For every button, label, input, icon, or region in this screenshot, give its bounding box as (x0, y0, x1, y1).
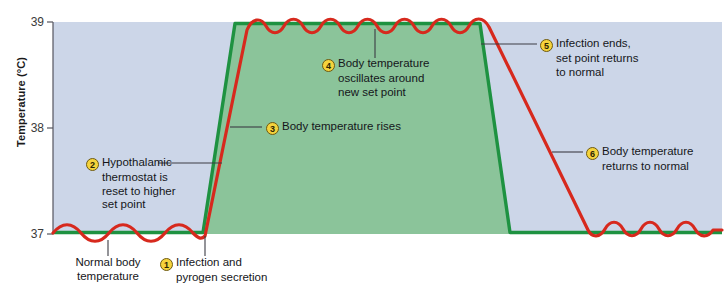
callout-text-4-line-1: Body temperature (338, 57, 429, 69)
callout-5: 5Infection ends, set point returns to no… (540, 37, 670, 79)
callout-text-4-line-2: oscillates around (338, 72, 424, 84)
y-tick-label-38: 38 (20, 121, 44, 135)
callout-badge-4: 4 (322, 59, 335, 72)
normal-body-temp-line-2: temperature (77, 270, 139, 282)
callout-badge-1: 1 (160, 258, 173, 271)
callout-text-6-line-2: returns to normal (602, 160, 689, 172)
y-tick-label-37: 37 (20, 227, 44, 241)
callout-badge-2: 2 (86, 158, 99, 171)
y-tick-label-39: 39 (20, 15, 44, 29)
callout-2: 2Hypothalamic thermostat is reset to hig… (86, 156, 186, 212)
callout-4: 4Body temperature oscillates around new … (322, 57, 450, 99)
callout-text-1-line-2: pyrogen secretion (176, 271, 267, 283)
label-normal-body-temperature: Normal body temperature (60, 256, 156, 283)
y-axis-title: Temperature (°C) (15, 27, 27, 177)
callout-text-2-line-4: set point (102, 198, 145, 210)
callout-text-3-line-1: Body temperature rises (282, 120, 401, 132)
normal-body-temp-line-1: Normal body (75, 256, 140, 268)
fever-response-figure: Temperature (°C) 39 38 37 1Infection and… (0, 0, 725, 294)
callout-text-2-line-2: thermostat is (102, 171, 168, 183)
callout-text-4-line-3: new set point (338, 86, 406, 98)
callout-text-5-line-3: to normal (556, 66, 604, 78)
callout-1: 1Infection and pyrogen secretion (160, 256, 300, 285)
callout-badge-6: 6 (586, 147, 599, 160)
callout-text-1-line-1: Infection and (176, 256, 242, 268)
callout-text-2-line-1: Hypothalamic (102, 156, 172, 168)
callout-6: 6Body temperature returns to normal (586, 145, 716, 174)
callout-text-5-line-2: set point returns (556, 52, 638, 64)
callout-3: 3Body temperature rises (266, 120, 446, 135)
callout-text-5-line-1: Infection ends, (556, 37, 631, 49)
callout-badge-5: 5 (540, 39, 553, 52)
callout-text-6-line-1: Body temperature (602, 145, 693, 157)
callout-badge-3: 3 (266, 122, 279, 135)
callout-text-2-line-3: reset to higher (102, 185, 176, 197)
